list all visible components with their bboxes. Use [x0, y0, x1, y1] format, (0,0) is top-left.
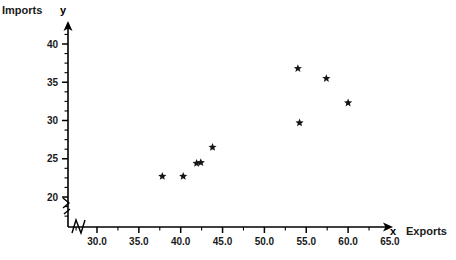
- x-tick-label: 50.0: [255, 236, 275, 247]
- x-tick-label: 30.0: [87, 236, 107, 247]
- y-tick-label: 35: [47, 77, 59, 88]
- y-tick-label: 20: [47, 192, 59, 203]
- x-tick-group: 30.035.040.045.050.055.060.065.0: [76, 227, 400, 247]
- x-tick-label: 65.0: [380, 236, 400, 247]
- x-tick-label: 45.0: [213, 236, 233, 247]
- data-point: [179, 172, 187, 180]
- x-axis-break-mark: [72, 220, 85, 233]
- x-tick-label: 55.0: [297, 236, 317, 247]
- y-tick-label: 30: [47, 115, 59, 126]
- x-tick-label: 40.0: [171, 236, 191, 247]
- data-point: [322, 74, 330, 82]
- data-point-group: [158, 64, 352, 180]
- y-axis-variable-label: y: [60, 4, 67, 16]
- x-axis-title: Exports: [406, 225, 447, 237]
- y-axis-title: Imports: [2, 4, 42, 16]
- y-tick-label: 40: [47, 39, 59, 50]
- y-tick-group: 2025303540: [47, 34, 68, 216]
- data-point: [295, 119, 303, 127]
- data-point: [344, 99, 352, 107]
- data-point: [294, 64, 302, 72]
- x-tick-label: 60.0: [338, 236, 358, 247]
- y-axis-break-tail: [64, 209, 70, 214]
- y-tick-label: 25: [47, 153, 59, 164]
- axes-group: [64, 21, 394, 232]
- data-point: [208, 143, 216, 151]
- scatter-plot: Imports y x Exports 2025303540 30.035.04…: [0, 0, 456, 260]
- data-point: [158, 172, 166, 180]
- x-tick-label: 35.0: [129, 236, 149, 247]
